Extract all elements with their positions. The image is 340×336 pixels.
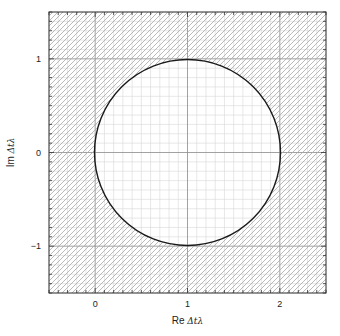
y-axis-label: Im Δtλ	[5, 138, 16, 168]
x-axis-label-symbol: Δtλ	[186, 316, 203, 326]
x-axis-label: Re Δtλ	[172, 315, 203, 326]
chart: 012 −101 Re Δtλ Im Δtλ	[0, 0, 340, 336]
y-tick-label: −1	[31, 241, 41, 251]
y-tick-label: 0	[36, 148, 41, 158]
y-axis-label-symbol: Δtλ	[6, 138, 16, 155]
x-tick-labels: 012	[93, 299, 283, 309]
x-axis-label-prefix: Re	[172, 315, 188, 326]
x-tick-label: 1	[185, 299, 190, 309]
hatched-region	[49, 12, 326, 293]
plot-area	[49, 12, 326, 293]
x-tick-label: 2	[277, 299, 282, 309]
y-tick-labels: −101	[31, 54, 41, 251]
y-axis-label-prefix: Im	[5, 153, 16, 167]
y-tick-label: 1	[36, 54, 41, 64]
x-tick-label: 0	[93, 299, 98, 309]
